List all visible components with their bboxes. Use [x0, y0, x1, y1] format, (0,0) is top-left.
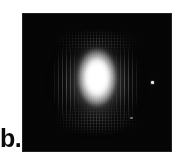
figure-panel: b.: [0, 0, 182, 166]
hot-pixel-speck-right: [151, 81, 154, 84]
hot-pixel-speck-lower: [130, 117, 133, 119]
beam-core-peak: [84, 58, 110, 98]
intensity-image-panel: [22, 13, 172, 152]
panel-label: b.: [0, 124, 22, 152]
